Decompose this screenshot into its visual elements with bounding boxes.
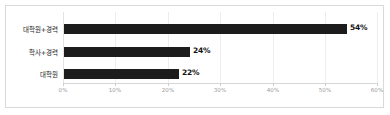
bar-value-1: 24% <box>193 46 210 55</box>
bar-1 <box>64 47 190 57</box>
tick-mark-60 <box>377 83 378 86</box>
gridline-30 <box>220 12 221 83</box>
x-tick-label-20: 20% <box>162 87 175 93</box>
bar-value-2: 22% <box>182 68 199 77</box>
tick-mark-30 <box>220 83 221 86</box>
tick-mark-50 <box>325 83 326 86</box>
gridline-60 <box>377 12 378 83</box>
gridline-50 <box>325 12 326 83</box>
x-tick-label-40: 40% <box>267 87 280 93</box>
bar-value-0: 54% <box>350 23 367 32</box>
x-tick-label-0: 0% <box>59 87 68 93</box>
plot-area: 0% 10% 20% 30% 40% 50% 60% 대학원+경력 학사+경력 … <box>6 6 383 107</box>
category-label-0: 대학원+경력 <box>23 24 58 34</box>
tick-mark-40 <box>273 83 274 86</box>
gridline-40 <box>273 12 274 83</box>
category-label-1: 학사+경력 <box>29 47 58 57</box>
x-tick-label-30: 30% <box>214 87 227 93</box>
x-tick-label-60: 60% <box>371 87 384 93</box>
x-tick-label-10: 10% <box>109 87 122 93</box>
category-label-2: 대학원 <box>40 69 58 79</box>
chart-frame: 0% 10% 20% 30% 40% 50% 60% 대학원+경력 학사+경력 … <box>5 5 384 108</box>
tick-mark-10 <box>115 83 116 86</box>
x-tick-label-50: 50% <box>319 87 332 93</box>
bar-2 <box>64 69 179 79</box>
tick-mark-20 <box>168 83 169 86</box>
bar-0 <box>64 24 347 34</box>
tick-mark-0 <box>63 83 64 86</box>
